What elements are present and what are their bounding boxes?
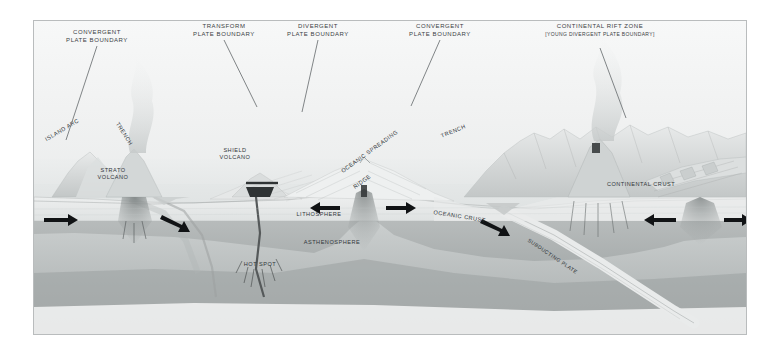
callout-sub: [YOUNG DIVERGENT PLATE BOUNDARY] — [510, 30, 690, 38]
label-lithosphere: LITHOSPHERE — [284, 211, 354, 218]
illustration-frame: ISLAND ARC TRENCH STRATO VOLCANO SHIELD … — [33, 20, 747, 335]
deep-fade-layer — [34, 284, 746, 334]
diagram-stage: ISLAND ARC TRENCH STRATO VOLCANO SHIELD … — [0, 0, 781, 354]
callout-line2: PLATE BOUNDARY — [287, 31, 349, 37]
callout-line2: PLATE BOUNDARY — [66, 37, 128, 43]
callout-line1: CONVERGENT — [416, 23, 464, 29]
callout-divergent: DIVERGENT PLATE BOUNDARY — [272, 22, 364, 38]
callout-line2: PLATE BOUNDARY — [409, 31, 471, 37]
callout-convergent-right: CONVERGENT PLATE BOUNDARY — [392, 22, 488, 38]
callout-line1: CONVERGENT — [73, 29, 121, 35]
label-continental-crust: CONTINENTAL CRUST — [596, 181, 686, 188]
callout-line1: DIVERGENT — [298, 23, 338, 29]
callout-line2: PLATE BOUNDARY — [193, 31, 255, 37]
label-asthenosphere: ASTHENOSPHERE — [290, 239, 374, 246]
callout-continental-rift: CONTINENTAL RIFT ZONE [YOUNG DIVERGENT P… — [510, 22, 690, 38]
callout-transform: TRANSFORM PLATE BOUNDARY — [178, 22, 270, 38]
callout-convergent-left: CONVERGENT PLATE BOUNDARY — [52, 28, 142, 44]
label-hot-spot: HOT SPOT — [230, 261, 290, 268]
label-strato-volcano-line2: VOLCANO — [88, 174, 138, 181]
callout-line1: CONTINENTAL RIFT ZONE — [557, 23, 643, 29]
label-shield-volcano-line2: VOLCANO — [210, 154, 260, 161]
callout-line1: TRANSFORM — [203, 23, 246, 29]
